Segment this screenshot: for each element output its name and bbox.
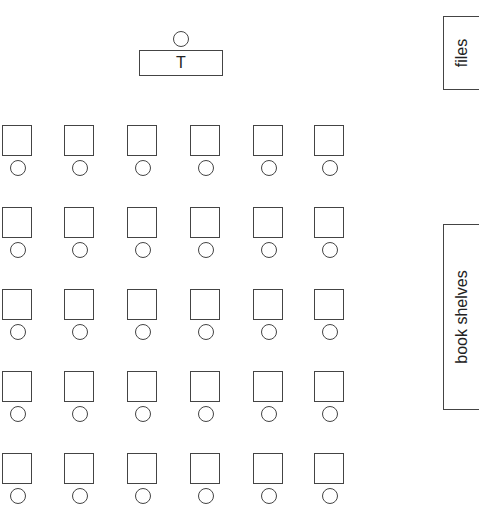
student-chair <box>261 406 277 422</box>
student-desk <box>314 371 344 402</box>
student-desk <box>253 453 283 484</box>
student-chair <box>10 242 26 258</box>
student-chair <box>322 324 338 340</box>
student-desk <box>314 453 344 484</box>
student-desk <box>127 125 157 156</box>
teacher-desk-label: T <box>176 54 186 72</box>
teacher-desk: T <box>139 50 223 76</box>
student-chair <box>10 406 26 422</box>
student-chair <box>135 242 151 258</box>
student-desk <box>190 289 220 320</box>
student-desk <box>64 453 94 484</box>
student-desk <box>2 125 32 156</box>
student-desk <box>314 289 344 320</box>
student-chair <box>10 160 26 176</box>
student-desk <box>127 371 157 402</box>
student-chair <box>10 324 26 340</box>
student-desk <box>190 207 220 238</box>
student-desk <box>253 289 283 320</box>
student-desk <box>64 289 94 320</box>
files-cabinet: files <box>443 16 479 90</box>
student-chair <box>72 242 88 258</box>
book-shelves-label: book shelves <box>453 270 471 363</box>
student-chair <box>72 406 88 422</box>
student-chair <box>198 406 214 422</box>
student-chair <box>135 324 151 340</box>
student-desk <box>253 371 283 402</box>
student-desk <box>2 453 32 484</box>
student-chair <box>72 324 88 340</box>
student-chair <box>135 160 151 176</box>
student-chair <box>135 406 151 422</box>
student-chair <box>10 488 26 504</box>
student-desk <box>64 125 94 156</box>
student-desk <box>2 289 32 320</box>
student-desk <box>64 207 94 238</box>
student-chair <box>198 488 214 504</box>
student-chair <box>198 242 214 258</box>
student-desk <box>314 207 344 238</box>
student-chair <box>72 160 88 176</box>
student-desk <box>253 207 283 238</box>
book-shelves: book shelves <box>443 224 479 410</box>
student-chair <box>135 488 151 504</box>
student-chair <box>322 488 338 504</box>
files-label: files <box>453 39 471 67</box>
student-chair <box>322 160 338 176</box>
student-desk <box>64 371 94 402</box>
student-chair <box>322 242 338 258</box>
student-desk <box>127 289 157 320</box>
student-desk <box>127 453 157 484</box>
student-desk <box>253 125 283 156</box>
student-chair <box>261 324 277 340</box>
student-chair <box>198 324 214 340</box>
student-desk <box>127 207 157 238</box>
student-chair <box>322 406 338 422</box>
student-desk <box>314 125 344 156</box>
student-chair <box>261 488 277 504</box>
student-desk <box>190 371 220 402</box>
student-chair <box>198 160 214 176</box>
student-chair <box>72 488 88 504</box>
teacher-chair <box>173 31 189 47</box>
student-desk <box>2 371 32 402</box>
student-chair <box>261 160 277 176</box>
student-desk <box>2 207 32 238</box>
student-desk <box>190 453 220 484</box>
student-desk <box>190 125 220 156</box>
student-chair <box>261 242 277 258</box>
